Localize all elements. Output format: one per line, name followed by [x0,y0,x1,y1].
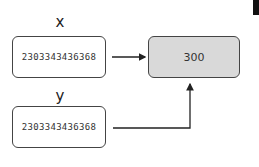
arrows [0,0,259,167]
corner-mark [253,0,259,15]
arrow-y-to-object [113,84,190,128]
